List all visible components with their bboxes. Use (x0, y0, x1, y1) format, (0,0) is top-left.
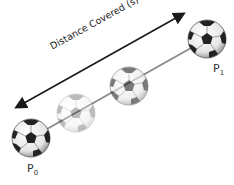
motion-diagram (0, 0, 234, 185)
start-label-sub: 0 (34, 169, 38, 177)
ball-start (12, 119, 50, 157)
ball-ghost-medium (110, 67, 148, 105)
start-label-base: P (27, 162, 34, 175)
distance-arrow (17, 14, 183, 107)
ball-end (188, 20, 226, 58)
start-point-label: P0 (27, 162, 38, 177)
ball-ghost-light (57, 94, 95, 132)
end-point-label: P1 (213, 62, 224, 77)
end-label-base: P (213, 62, 220, 75)
end-label-sub: 1 (220, 69, 224, 77)
